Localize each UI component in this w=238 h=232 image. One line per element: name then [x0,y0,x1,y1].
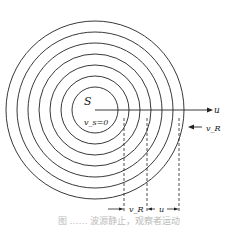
wave-velocity-label: v_R [206,124,221,133]
spacing-label-vr: v_R [129,205,144,214]
wave-arrow [188,125,202,130]
spacing-label-u: u [159,205,164,214]
source-label: S [84,95,92,108]
source-velocity-label: v_s=0 [84,118,108,127]
observer-velocity-label: u [214,105,220,115]
projection-lines [124,118,179,212]
figure-caption: 图 …… 波源静止，观察者运动 [0,214,238,227]
wavefront-diagram: S v_s=0 u v_R v_R u [0,0,238,232]
observer-arrow [95,108,213,113]
